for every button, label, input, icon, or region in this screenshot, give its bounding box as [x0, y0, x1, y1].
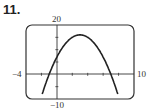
- axis-ticks: [41, 37, 118, 86]
- window-frame: [26, 25, 134, 99]
- ymin-label: −10: [50, 100, 65, 110]
- parabola-curve: [42, 35, 118, 94]
- graph: 20 −4 10 −10: [0, 0, 149, 110]
- ymax-label: 20: [52, 14, 62, 24]
- xmax-label: 10: [137, 69, 147, 79]
- xmin-label: −4: [12, 69, 22, 79]
